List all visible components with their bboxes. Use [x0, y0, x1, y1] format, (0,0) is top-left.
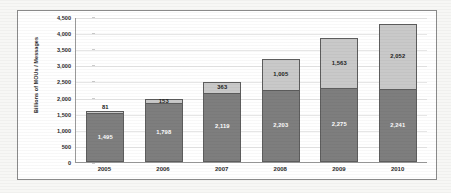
- bar-segment-mous[interactable]: 1,495: [86, 114, 124, 162]
- plot-area: 811,4951531,7983632,1191,0052,2031,5632,…: [75, 18, 427, 163]
- x-tick-label: 2007: [203, 166, 241, 172]
- x-tick-label: 2010: [379, 166, 417, 172]
- bar-segment-mous[interactable]: 2,119: [203, 94, 241, 162]
- bar-value-label: 2,203: [273, 123, 288, 129]
- bar-value-label: 363: [217, 85, 227, 91]
- y-tick-label: 0: [68, 160, 71, 166]
- y-tick-label: 500: [62, 144, 71, 150]
- y-tick-label: 3,500: [57, 47, 71, 53]
- bar-segment-mous[interactable]: 2,203: [262, 91, 300, 162]
- bar-segment-messages[interactable]: 1,563: [320, 38, 358, 88]
- bar-value-label: 1,495: [98, 135, 113, 141]
- bar-segment-messages[interactable]: 363: [203, 82, 241, 94]
- bar-value-label: 2,241: [390, 123, 405, 129]
- bar-group[interactable]: 811,495: [86, 18, 124, 162]
- bar-value-label: 81: [102, 104, 108, 110]
- bar-segment-messages[interactable]: 1,005: [262, 59, 300, 91]
- bar-group[interactable]: 2,0522,241: [379, 18, 417, 162]
- bar-group[interactable]: 1531,798: [145, 18, 183, 162]
- y-tick-label: 2,500: [57, 79, 71, 85]
- chart-figure: Billions of MOUs / Messages 05001,0001,5…: [0, 0, 451, 193]
- y-tick-label: 2,000: [57, 96, 71, 102]
- x-tick-label: 2009: [320, 166, 358, 172]
- x-tick-label: 2006: [144, 166, 182, 172]
- bar-segment-mous[interactable]: 2,241: [379, 90, 417, 162]
- bar-value-label: 2,275: [332, 122, 347, 128]
- bar-group[interactable]: 3632,119: [203, 18, 241, 162]
- y-tick-label: 1,000: [57, 128, 71, 134]
- bar-value-label: 2,119: [215, 124, 230, 130]
- y-tick-label: 4,000: [57, 31, 71, 37]
- y-axis-tick-labels: 05001,0001,5002,0002,5003,0003,5004,0004…: [37, 18, 71, 163]
- bar-series-container: 811,4951531,7983632,1191,0052,2031,5632,…: [76, 18, 427, 162]
- bar-value-label: 2,052: [390, 54, 405, 60]
- x-axis-tick-labels: 200520062007200820092010: [75, 166, 427, 172]
- bar-value-label: 1,005: [273, 72, 288, 78]
- chart-plot-container: Billions of MOUs / Messages 05001,0001,5…: [17, 10, 437, 180]
- bar-segment-messages[interactable]: 2,052: [379, 24, 417, 90]
- bar-group[interactable]: 1,0052,203: [262, 18, 300, 162]
- x-tick-label: 2005: [85, 166, 123, 172]
- bar-segment-mous[interactable]: 2,275: [320, 89, 358, 162]
- x-tick-label: 2008: [261, 166, 299, 172]
- bar-group[interactable]: 1,5632,275: [320, 18, 358, 162]
- bar-segment-mous[interactable]: 1,798: [145, 104, 183, 162]
- bar-value-label: 1,798: [156, 130, 171, 136]
- y-tick-label: 1,500: [57, 112, 71, 118]
- y-tick-label: 3,000: [57, 63, 71, 69]
- bar-value-label: 1,563: [332, 61, 347, 67]
- y-tick-label: 4,500: [57, 15, 71, 21]
